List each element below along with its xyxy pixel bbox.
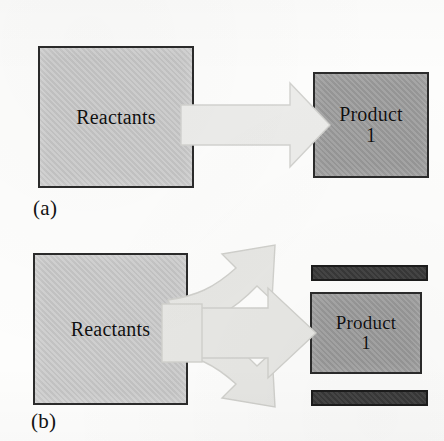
panel-b-caption: (b) bbox=[31, 409, 56, 434]
panel-a-reactants-label: Reactants bbox=[76, 107, 156, 128]
panel-a-caption: (a) bbox=[33, 196, 57, 221]
panel-a-main-arrow-icon bbox=[181, 83, 330, 167]
panel-b-product-1-label-line1: Product bbox=[336, 313, 397, 333]
panel-b-upper-product-bar bbox=[311, 265, 428, 281]
panel-a-product-1-label-line2: 1 bbox=[366, 125, 376, 146]
panel-a-product-1-box: Product 1 bbox=[313, 72, 429, 178]
panel-a-product-1-label-line1: Product bbox=[339, 104, 403, 125]
panel-b-product-1-label-line2: 1 bbox=[361, 333, 371, 353]
figure-canvas: Reactants Product 1 (a) Reactants Produc… bbox=[0, 0, 444, 441]
panel-a-reactants-box: Reactants bbox=[38, 46, 194, 188]
panel-b-reactants-label: Reactants bbox=[71, 319, 151, 340]
panel-b-reactants-box: Reactants bbox=[33, 253, 188, 405]
panel-b-product-1-box: Product 1 bbox=[310, 292, 422, 374]
panel-b-lower-product-bar bbox=[311, 390, 428, 406]
